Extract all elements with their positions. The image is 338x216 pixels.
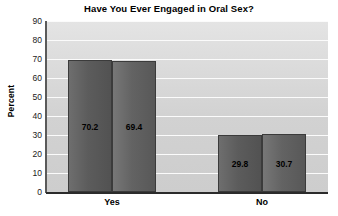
- bar-value-yes-male: 70.2: [69, 122, 111, 132]
- y-axis-tick-labels: 90 80 70 60 50 40 30 20 10 0: [0, 0, 42, 216]
- x-category-no: No: [218, 197, 306, 208]
- x-category-yes: Yes: [68, 197, 156, 208]
- y-tick-30: 30: [2, 131, 42, 140]
- bar-no-male[interactable]: 29.8: [218, 135, 262, 192]
- bar-no-female[interactable]: 30.7: [262, 134, 306, 192]
- bar-chart: Have You Ever Engaged in Oral Sex? Male …: [0, 0, 338, 216]
- plot-area: 70.2 69.4 29.8 30.7: [46, 21, 328, 192]
- x-axis-line: [46, 192, 328, 194]
- y-tick-90: 90: [2, 17, 42, 26]
- bar-yes-male[interactable]: 70.2: [68, 60, 112, 192]
- y-axis-line: [45, 21, 47, 193]
- bar-yes-female[interactable]: 69.4: [112, 61, 156, 192]
- y-tick-60: 60: [2, 74, 42, 83]
- y-tick-80: 80: [2, 36, 42, 45]
- y-tick-50: 50: [2, 93, 42, 102]
- y-tick-0: 0: [2, 188, 42, 197]
- chart-title: Have You Ever Engaged in Oral Sex?: [0, 3, 338, 15]
- y-tick-40: 40: [2, 112, 42, 121]
- bar-value-yes-female: 69.4: [113, 122, 155, 132]
- y-tick-70: 70: [2, 55, 42, 64]
- y-tick-10: 10: [2, 169, 42, 178]
- gridline-80: [46, 40, 328, 41]
- bar-value-no-male: 29.8: [219, 159, 261, 169]
- y-tick-20: 20: [2, 150, 42, 159]
- gridline-90: [46, 21, 328, 22]
- bar-value-no-female: 30.7: [263, 159, 305, 169]
